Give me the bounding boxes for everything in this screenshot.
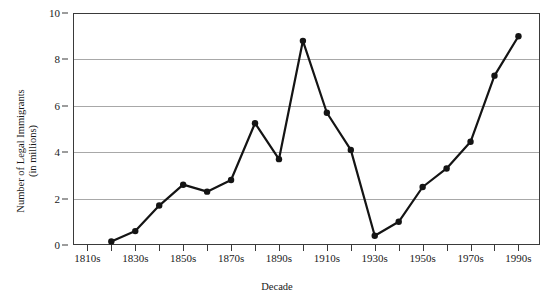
gridline (74, 106, 539, 107)
y-tick-label: 4 (55, 147, 61, 158)
y-tick-mark (62, 59, 68, 60)
x-tick-mark (471, 245, 472, 251)
x-tick-label: 1870s (218, 253, 244, 264)
x-tick-mark (423, 245, 424, 251)
x-tick-mark (327, 245, 328, 251)
x-tick-label: 1970s (457, 253, 483, 264)
x-tick-mark (518, 245, 519, 251)
gridline (74, 199, 539, 200)
x-tick-mark (303, 245, 304, 251)
y-tick-mark (62, 152, 68, 153)
y-tick-mark (62, 13, 68, 14)
x-tick-mark (231, 245, 232, 251)
x-tick-mark (494, 245, 495, 251)
y-tick-label: 2 (55, 193, 61, 204)
x-tick-mark (135, 245, 136, 251)
x-tick-mark (207, 245, 208, 251)
plot-area (73, 13, 540, 245)
x-tick-label: 1810s (74, 253, 100, 264)
y-tick-mark (62, 105, 68, 106)
y-tick-mark (62, 245, 68, 246)
x-tick-label: 1950s (410, 253, 436, 264)
y-axis-title-line-2: (in millions) (27, 124, 38, 176)
x-tick-label: 1850s (170, 253, 196, 264)
x-tick-label: 1890s (266, 253, 292, 264)
x-tick-mark (159, 245, 160, 251)
x-tick-mark (183, 245, 184, 251)
x-tick-mark (87, 245, 88, 251)
y-axis-title-line-1: Number of Legal Immigrants (15, 89, 26, 212)
y-tick-label: 6 (55, 100, 61, 111)
x-tick-mark (255, 245, 256, 251)
x-tick-label: 1830s (122, 253, 148, 264)
x-tick-label: 1930s (362, 253, 388, 264)
x-tick-label: 1990s (505, 253, 531, 264)
gridline (74, 152, 539, 153)
y-axis-title: Number of Legal Immigrants (in millions) (15, 56, 40, 246)
y-axis: Number of Legal Immigrants (in millions)… (0, 0, 73, 301)
x-tick-mark (111, 245, 112, 251)
x-tick-mark (351, 245, 352, 251)
y-tick-label: 10 (49, 8, 60, 19)
x-tick-mark (375, 245, 376, 251)
y-tick-label: 8 (55, 54, 61, 65)
x-axis-title: Decade (0, 281, 554, 292)
x-tick-mark (279, 245, 280, 251)
y-tick-mark (62, 198, 68, 199)
gridline (74, 59, 539, 60)
immigration-line-chart: Number of Legal Immigrants (in millions)… (0, 0, 554, 301)
x-tick-mark (447, 245, 448, 251)
x-tick-mark (399, 245, 400, 251)
x-tick-label: 1910s (314, 253, 340, 264)
y-tick-label: 0 (55, 240, 61, 251)
